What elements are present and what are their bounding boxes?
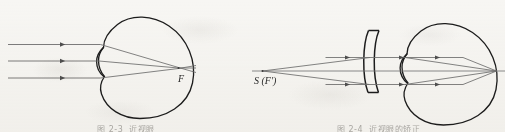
myopia-uncorrected-diagram: F (0, 0, 252, 132)
figure-page: F 图 2-3近视眼 (0, 0, 505, 132)
figure-myopia-uncorrected: F 图 2-3近视眼 (0, 0, 252, 132)
incoming-ray-arrowheads (60, 42, 65, 80)
source-point-marker (262, 70, 264, 72)
figure-myopia-corrected: S (F') 图 2-4近视眼的矫正 (252, 0, 505, 132)
figure-left-caption-number: 图 2-3 (97, 125, 123, 132)
incoming-rays (8, 45, 101, 79)
figure-right-caption-text: 近视眼的矫正 (369, 125, 420, 132)
eyeball-outline (400, 24, 497, 125)
figure-right-caption-number: 图 2-4 (337, 125, 363, 132)
myopia-corrected-diagram: S (F') (252, 0, 505, 132)
figure-left-caption-text: 近视眼 (129, 125, 155, 132)
source-focal-label: S (F') (254, 75, 277, 87)
figure-left-caption: 图 2-3近视眼 (0, 125, 252, 132)
figure-right-caption: 图 2-4近视眼的矫正 (252, 125, 505, 132)
concave-lens (364, 31, 379, 93)
focal-point-marker (178, 67, 180, 69)
focal-point-label: F (177, 73, 185, 84)
